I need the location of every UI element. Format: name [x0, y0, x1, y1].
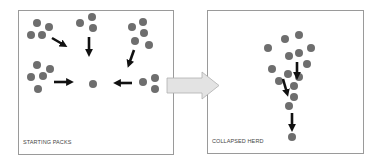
herd-dot: [295, 49, 303, 57]
right-pack-dot: [139, 78, 147, 86]
top-center-pack-dot: [89, 24, 97, 32]
herd-dot: [281, 35, 289, 43]
herd-dot: [264, 44, 272, 52]
right-pack-dot: [151, 85, 159, 93]
middle-left-pack-dot: [39, 72, 47, 80]
center-dot-dot: [89, 80, 97, 88]
herd-dot: [285, 52, 293, 60]
herd-dot: [303, 60, 311, 68]
middle-left-pack-dot: [46, 65, 54, 73]
right-arrow-icon: [167, 72, 219, 99]
middle-left-pack-dot: [34, 85, 42, 93]
middle-left-pack-dot: [33, 61, 41, 69]
herd-dot: [295, 31, 303, 39]
collapsed-herd-label: COLLAPSED HERD: [212, 138, 264, 144]
herd-dot: [268, 65, 276, 73]
dots-layer: [27, 13, 315, 141]
top-right-pack-dot: [140, 29, 148, 37]
top-center-pack-dot: [76, 19, 84, 27]
herd-dot: [275, 77, 283, 85]
top-right-pack-dot: [128, 23, 136, 31]
top-right-pack-dot: [139, 18, 147, 26]
middle-left-pack-dot: [27, 73, 35, 81]
top-right-pack-dot: [131, 37, 139, 45]
starting-packs-label: STARTING PACKS: [23, 139, 71, 145]
top-right-pack-dot: [145, 41, 153, 49]
top-left-pack-dot: [33, 19, 41, 27]
herd-dot: [285, 102, 293, 110]
herd-dot: [307, 44, 315, 52]
right-pack-dot: [151, 74, 159, 82]
arrow-top-right-icon: [129, 50, 134, 64]
herd-dot: [284, 70, 292, 78]
arrow-middle-icon: [283, 79, 287, 93]
herd-dot: [288, 133, 296, 141]
top-center-pack-dot: [88, 13, 96, 21]
herd-dot: [290, 93, 298, 101]
top-left-pack-dot: [27, 31, 35, 39]
arrow-top-left-icon: [52, 38, 64, 45]
top-left-pack-dot: [38, 31, 46, 39]
top-left-pack-dot: [45, 23, 53, 31]
herd-dot: [290, 82, 298, 90]
